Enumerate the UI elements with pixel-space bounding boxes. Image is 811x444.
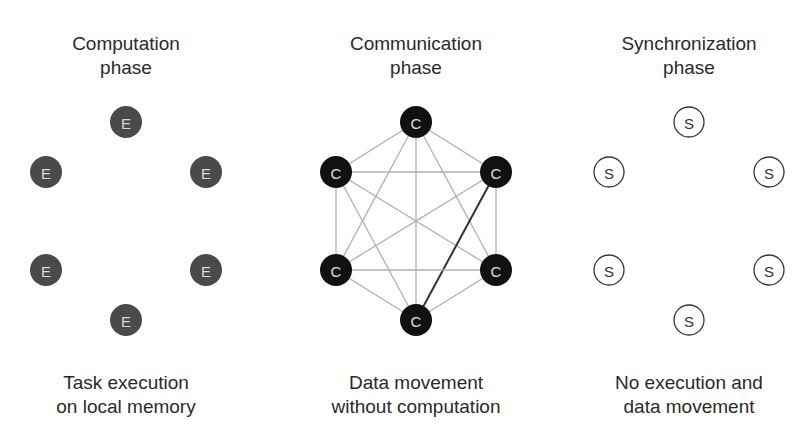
node-label: C — [411, 313, 422, 330]
communication-phase-caption: Data movement without computation — [306, 371, 526, 419]
synchronization-nodes: SSSSSS — [594, 107, 784, 335]
node-label: E — [41, 263, 51, 280]
node-label: E — [121, 313, 131, 330]
node-label: C — [331, 165, 342, 182]
caption-line: Task execution — [16, 371, 236, 395]
computation-nodes: EEEEEE — [30, 106, 222, 336]
caption-line: on local memory — [16, 395, 236, 419]
node-label: C — [491, 263, 502, 280]
communication-edges — [336, 122, 496, 320]
node-label: S — [684, 313, 694, 330]
node-label: S — [604, 263, 614, 280]
node-label: S — [604, 165, 614, 182]
node-label: S — [764, 263, 774, 280]
node-label: S — [684, 115, 694, 132]
caption-line: No execution and — [579, 371, 799, 395]
node-label: C — [491, 165, 502, 182]
node-label: S — [764, 165, 774, 182]
caption-line: without computation — [306, 395, 526, 419]
node-label: E — [41, 165, 51, 182]
computation-phase-caption: Task execution on local memory — [16, 371, 236, 419]
node-label: C — [411, 115, 422, 132]
synchronization-phase-caption: No execution and data movement — [579, 371, 799, 419]
node-label: E — [201, 165, 211, 182]
node-label: C — [331, 263, 342, 280]
highlighted-edge — [416, 172, 496, 320]
node-label: E — [201, 263, 211, 280]
caption-line: data movement — [579, 395, 799, 419]
caption-line: Data movement — [306, 371, 526, 395]
node-label: E — [121, 115, 131, 132]
